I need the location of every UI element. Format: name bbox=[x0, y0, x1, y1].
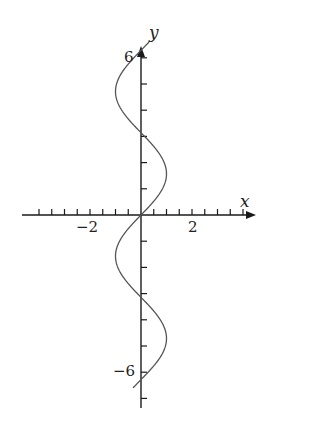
x-axis-arrow-icon bbox=[246, 211, 256, 219]
tick-label-neg6: −6 bbox=[113, 364, 135, 379]
y-axis bbox=[137, 46, 147, 408]
x-axis-label: x bbox=[240, 193, 250, 210]
y-axis-label: y bbox=[149, 24, 159, 41]
y-axis-ticks bbox=[141, 58, 147, 399]
tick-label-pos2: 2 bbox=[188, 220, 198, 235]
tick-label-neg2: −2 bbox=[76, 220, 98, 235]
tick-label-pos6: 6 bbox=[124, 50, 134, 65]
